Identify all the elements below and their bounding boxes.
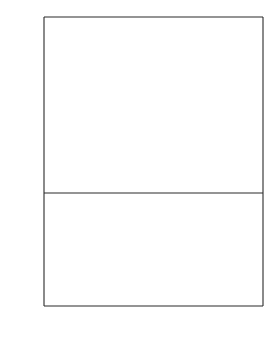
top-panel-frame [44, 17, 263, 193]
figure-container [0, 0, 277, 341]
two-panel-line-chart [0, 0, 277, 341]
bottom-panel-frame [44, 193, 263, 306]
